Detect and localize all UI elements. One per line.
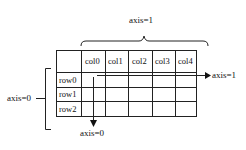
table-grid — [56, 50, 197, 117]
axis0-arrowhead-icon — [90, 120, 97, 127]
axis1-top-label: axis=1 — [129, 15, 153, 25]
axis0-left-label: axis=0 — [7, 93, 31, 103]
column-header-col2: col2 — [132, 56, 147, 66]
column-header-col3: col3 — [155, 56, 170, 66]
axis1-arrowhead-icon — [205, 72, 211, 79]
column-header-col1: col1 — [108, 56, 123, 66]
column-header-col4: col4 — [178, 56, 193, 66]
left-bracket — [46, 69, 52, 130]
row-header-row0: row0 — [59, 75, 76, 85]
diagram-canvas — [0, 0, 246, 150]
row-header-row2: row2 — [59, 104, 76, 114]
column-header-col0: col0 — [85, 56, 100, 66]
axis1-arrow-label: axis=1 — [212, 70, 236, 80]
row-header-row1: row1 — [59, 89, 76, 99]
top-brace — [81, 36, 208, 46]
axis0-arrow-label: axis=0 — [80, 128, 104, 138]
